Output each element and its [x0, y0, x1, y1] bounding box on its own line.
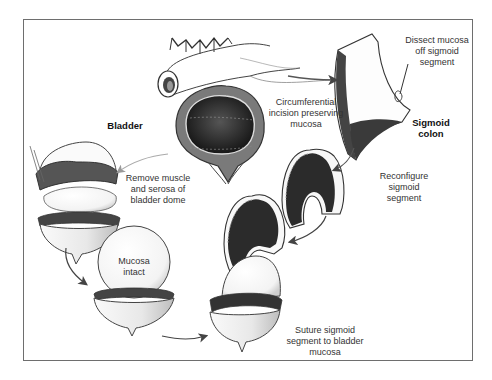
label-reconfigure: Reconfigure sigmoid segment [374, 171, 434, 204]
label-dissect-mucosa: Dissect mucosa off sigmoid segment [400, 35, 474, 68]
label-suture: Suture sigmoid segment to bladder mucosa [280, 325, 370, 358]
label-remove-muscle: Remove muscle and serosa of bladder dome [122, 173, 194, 206]
sigmoid-colon-illustration [158, 38, 345, 97]
label-bladder: Bladder [103, 120, 147, 131]
label-circumferential-incision: Circumferential incision preserving muco… [266, 97, 346, 130]
opened-bladder-illustration [176, 86, 264, 184]
label-mucosa-intact: Mucosa intact [108, 256, 160, 278]
reconfigured-sigmoid-illustration [282, 148, 354, 228]
label-sigmoid-colon: Sigmoid colon [406, 117, 456, 139]
